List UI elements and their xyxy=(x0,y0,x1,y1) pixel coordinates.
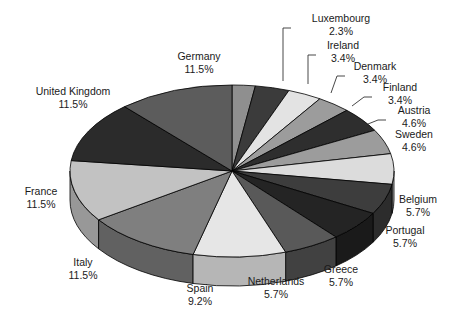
slice-label-name: Portugal xyxy=(385,224,424,236)
leader-line-austria xyxy=(368,120,386,124)
slice-label-percent: 2.3% xyxy=(329,25,353,37)
slice-label-name: United Kingdom xyxy=(36,85,111,97)
pie-chart-figure: Luxembourg2.3%Ireland3.4%Denmark3.4%Finl… xyxy=(0,0,461,321)
pie-chart-svg: Luxembourg2.3%Ireland3.4%Denmark3.4%Finl… xyxy=(0,0,461,321)
slice-label-percent: 11.5% xyxy=(185,63,214,75)
leader-line-luxembourg xyxy=(283,28,291,81)
slice-label-percent: 5.7% xyxy=(329,276,353,288)
slice-label-name: France xyxy=(25,185,58,197)
slice-label-name: Ireland xyxy=(327,39,359,51)
pie-slice-tops xyxy=(70,85,394,257)
slice-label-name: Italy xyxy=(73,256,93,268)
leader-line-ireland xyxy=(308,55,316,84)
slice-label-percent: 11.5% xyxy=(69,269,98,281)
slice-label-percent: 11.5% xyxy=(27,198,56,210)
slice-label-percent: 4.6% xyxy=(402,141,426,153)
leader-line-finland xyxy=(352,97,372,106)
slice-label-name: Greece xyxy=(324,263,359,275)
slice-label-name: Spain xyxy=(187,282,214,294)
slice-label-name: Austria xyxy=(398,104,431,116)
slice-label-name: Netherlands xyxy=(248,275,305,287)
slice-label-name: Belgium xyxy=(399,193,437,205)
slice-label-percent: 9.2% xyxy=(188,295,212,307)
slice-label-percent: 3.4% xyxy=(331,52,355,64)
slice-label-name: Luxembourg xyxy=(312,12,371,24)
slice-label-percent: 5.7% xyxy=(264,288,288,300)
leader-line-denmark xyxy=(331,76,345,93)
slice-label-percent: 5.7% xyxy=(406,206,430,218)
slice-label-name: Germany xyxy=(177,50,221,62)
slice-label-name: Sweden xyxy=(395,128,433,140)
slice-label-percent: 11.5% xyxy=(59,98,88,110)
slice-label-percent: 5.7% xyxy=(393,237,417,249)
slice-label-name: Finland xyxy=(383,81,418,93)
slice-label-name: Denmark xyxy=(354,60,397,72)
